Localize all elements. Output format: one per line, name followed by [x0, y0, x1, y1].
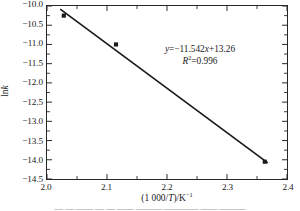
- y-axis-tick-label: −12.5: [22, 98, 43, 107]
- data-point-marker: [114, 42, 118, 46]
- x-axis-title-open: (1 000/: [141, 193, 168, 203]
- y-axis-tick-label: −11.5: [23, 59, 43, 68]
- data-point-marker: [62, 14, 66, 18]
- x-axis-title: (1 000/T)/K−1: [46, 193, 288, 203]
- data-point-marker: [263, 160, 267, 164]
- x-axis-title-close: )/K: [173, 193, 186, 203]
- y-axis-tick-label: −10.0: [22, 0, 43, 9]
- r-value: =0.996: [191, 56, 217, 66]
- x-axis-title-exponent: −1: [186, 191, 193, 198]
- y-axis-title-variable: k: [0, 85, 10, 89]
- y-axis-tick-label: −13.5: [22, 137, 43, 146]
- plot-canvas: [47, 6, 287, 179]
- fit-line: [60, 9, 268, 163]
- y-axis-tick-label: −10.5: [22, 20, 43, 29]
- x-axis-tick-label: 2.4: [282, 183, 293, 192]
- y-axis-tick-label: −11.0: [23, 39, 43, 48]
- x-axis-tick-label: 2.2: [161, 183, 172, 192]
- r-squared-line: R2=0.996: [148, 56, 252, 68]
- fit-equation-annotation: y=−11.542x+13.26 R2=0.996: [148, 44, 252, 67]
- x-axis-tick-label: 2.3: [222, 183, 233, 192]
- x-axis-tick-label: 2.0: [40, 183, 51, 192]
- arrhenius-plot-figure: −10.0−10.5−11.0−11.5−12.0−12.5−13.0−13.5…: [0, 0, 300, 211]
- equation-body: =−11.542: [169, 44, 205, 54]
- y-axis-title-prefix: ln: [0, 89, 10, 96]
- plot-area: [46, 5, 288, 180]
- y-axis-tick-label: −13.0: [22, 117, 43, 126]
- axis-tick-marks: [47, 6, 287, 179]
- y-axis-tick-label: −12.0: [22, 78, 43, 87]
- y-axis-tick-label: −14.0: [22, 156, 43, 165]
- data-points: [62, 14, 267, 164]
- fit-equation-line: y=−11.542x+13.26: [148, 44, 252, 56]
- figure-caption-partial: — — —— — — —— ——— ———— —— ———: [0, 204, 300, 211]
- y-axis-title: lnk: [0, 74, 10, 108]
- equation-tail: +13.26: [209, 44, 235, 54]
- fit-line-path: [60, 9, 268, 163]
- x-axis-tick-label: 2.1: [101, 183, 112, 192]
